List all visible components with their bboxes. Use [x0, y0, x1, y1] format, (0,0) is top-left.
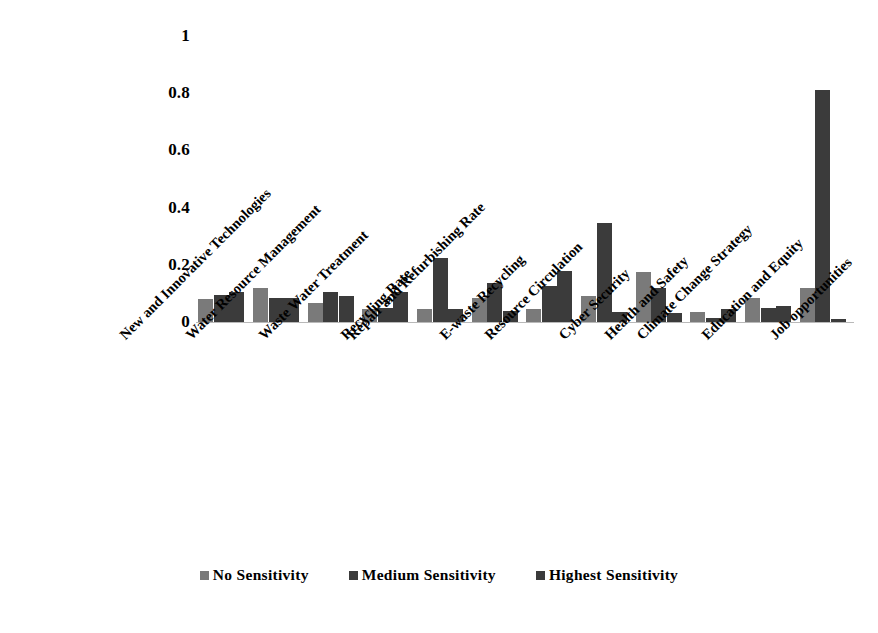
legend-label: No Sensitivity	[213, 566, 309, 584]
legend-swatch-icon	[200, 571, 209, 580]
bar	[253, 288, 268, 322]
bar	[417, 309, 432, 322]
bar	[308, 303, 323, 322]
x-axis: New and Innovative TechnologiesWater Res…	[0, 322, 878, 542]
bar	[526, 309, 541, 322]
legend-swatch-icon	[536, 571, 545, 580]
legend-item[interactable]: No Sensitivity	[200, 566, 309, 584]
y-axis-tick-label: 0.6	[168, 141, 190, 158]
legend-item[interactable]: Medium Sensitivity	[349, 566, 496, 584]
legend-label: Highest Sensitivity	[549, 566, 678, 584]
y-axis-tick-label: 0.8	[168, 84, 190, 101]
bar	[557, 271, 572, 322]
bar-chart: 00.20.40.60.81 New and Innovative Techno…	[0, 0, 878, 633]
legend-item[interactable]: Highest Sensitivity	[536, 566, 678, 584]
legend-swatch-icon	[349, 571, 358, 580]
bar	[542, 286, 557, 322]
chart-legend: No SensitivityMedium SensitivityHighest …	[0, 566, 878, 584]
bar	[690, 312, 705, 322]
y-axis-tick-label: 0.4	[168, 199, 190, 216]
bar	[761, 308, 776, 322]
bar	[433, 258, 448, 322]
bar	[323, 292, 338, 322]
y-axis-tick-label: 1	[181, 27, 190, 44]
legend-label: Medium Sensitivity	[362, 566, 496, 584]
